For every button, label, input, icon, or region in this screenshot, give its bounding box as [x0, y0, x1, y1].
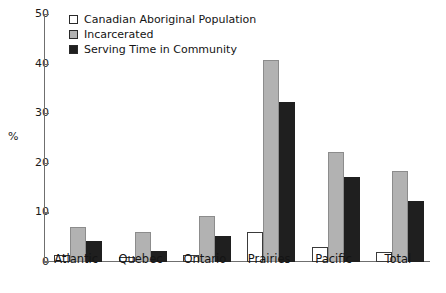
bar-group-ontario	[183, 14, 231, 262]
bar[interactable]	[344, 177, 360, 262]
bar-chart: % 01020304050 Canadian Aboriginal Popula…	[0, 0, 446, 293]
bar-group-pacific	[312, 14, 360, 262]
bar-group-quebec	[119, 14, 167, 262]
plot-area	[44, 14, 430, 262]
bar[interactable]	[328, 152, 344, 262]
x-axis-label: Total	[343, 252, 446, 266]
bar-group-prairies	[247, 14, 295, 262]
bar-group-total	[376, 14, 424, 262]
bar[interactable]	[263, 60, 279, 262]
bar-group-atlantic	[54, 14, 102, 262]
bar[interactable]	[392, 171, 408, 262]
bar[interactable]	[279, 102, 295, 262]
y-axis-title: %	[8, 130, 18, 143]
